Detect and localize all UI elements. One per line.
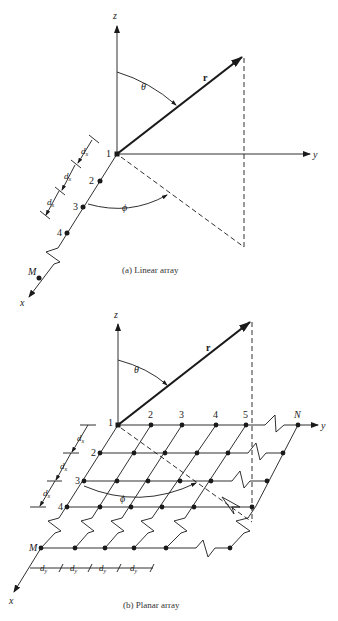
element-2-5	[226, 451, 231, 456]
dx-tick-3	[55, 187, 65, 195]
theta-label: θ	[141, 81, 146, 92]
dy-label-3: dy	[99, 563, 107, 574]
row-label-2: 2	[91, 447, 96, 458]
row-2-line	[100, 443, 283, 460]
element-3-2	[115, 479, 120, 484]
row-4-line	[67, 497, 252, 514]
element-m-2	[73, 546, 78, 551]
element-3-4	[178, 479, 183, 484]
element-1-1	[116, 423, 121, 428]
element-2	[98, 179, 103, 184]
column-label-4: 4	[213, 409, 218, 420]
phi-label: ϕ	[120, 493, 125, 504]
element-2-4	[195, 451, 200, 456]
element-4-5	[192, 505, 197, 510]
theta-arc	[118, 360, 167, 385]
element-3	[81, 205, 86, 210]
planar-array-labels: z y x r θ ϕ 1 2 3 4 M 2 3 4 5 N dx dx dx…	[8, 309, 326, 610]
z-axis-label: z	[113, 309, 118, 320]
row-1-line	[118, 415, 298, 432]
element-3-n	[265, 479, 270, 484]
element-4	[65, 231, 70, 236]
x-axis-label: x	[19, 297, 25, 308]
element-1-n	[296, 423, 301, 428]
element-m-1	[39, 546, 44, 551]
dy-label-4: dy	[130, 563, 138, 574]
column-5-line	[166, 425, 246, 548]
element-1-2	[149, 423, 154, 428]
phi-label: ϕ	[122, 202, 127, 213]
element-1-5	[244, 423, 249, 428]
theta-arc	[117, 72, 176, 105]
antenna-array-figure: z y x r θ ϕ 1 2 3 4 M dx dx dx (a) Linea…	[0, 0, 338, 621]
element-m	[37, 276, 42, 281]
column-label-n: N	[293, 409, 302, 420]
element-4-2	[98, 505, 103, 510]
element-4-4	[160, 505, 165, 510]
column-4-line	[134, 425, 216, 548]
dy-label-1: dy	[40, 563, 48, 574]
element-4-n	[250, 505, 255, 510]
dx-label-2: dx	[60, 461, 68, 472]
dx-label-3: dx	[47, 197, 55, 208]
element-m-4	[132, 546, 137, 551]
element-m-5	[164, 546, 169, 551]
column-label-2: 2	[148, 409, 153, 420]
element-1-4	[214, 423, 219, 428]
element-m-n	[228, 546, 233, 551]
dx-label-2: dx	[64, 171, 72, 182]
element-label-4: 4	[57, 227, 62, 238]
element-4-3	[129, 505, 134, 510]
element-1	[115, 152, 120, 157]
linear-array-diagram	[29, 26, 310, 297]
element-1-3	[180, 423, 185, 428]
y-axis-label: y	[312, 149, 318, 160]
r-vector-label: r	[206, 342, 211, 353]
element-label-2: 2	[89, 175, 94, 186]
y-axis-label: y	[320, 420, 326, 431]
element-2-n	[281, 451, 286, 456]
r-vector-label: r	[203, 72, 208, 83]
row-label-1: 1	[108, 417, 113, 428]
phi-arc	[88, 195, 167, 208]
element-4-1	[65, 505, 70, 510]
element-3-1	[82, 479, 87, 484]
row-label-4: 4	[58, 501, 63, 512]
planar-array-diagram	[14, 322, 318, 592]
projection-ground	[121, 157, 244, 247]
element-m-3	[103, 546, 108, 551]
dx-tick-4	[40, 211, 50, 219]
column-label-3: 3	[179, 409, 184, 420]
break-symbol	[46, 248, 60, 264]
linear-array-labels: z y x r θ ϕ 1 2 3 4 M dx dx dx (a) Linea…	[19, 10, 318, 308]
element-2-1	[98, 451, 103, 456]
element-2-3	[163, 451, 168, 456]
row-3-line	[84, 471, 267, 488]
r-vector	[117, 57, 242, 154]
z-axis-label: z	[112, 10, 117, 21]
column-1-line	[41, 425, 118, 548]
caption-linear-array: (a) Linear array	[122, 265, 179, 275]
element-2-2	[132, 451, 137, 456]
row-label-3: 3	[75, 475, 80, 486]
element-3-3	[146, 479, 151, 484]
element-3-5	[209, 479, 214, 484]
dy-label-2: dy	[70, 563, 78, 574]
row-label-m: M	[28, 542, 38, 553]
dx-label-1: dx	[77, 433, 85, 444]
element-label-3: 3	[73, 201, 78, 212]
element-label-1: 1	[106, 148, 111, 159]
element-label-m: M	[27, 266, 37, 277]
column-3-line	[105, 425, 182, 548]
column-label-5: 5	[243, 409, 248, 420]
column-2-line	[75, 425, 151, 548]
x-axis	[14, 548, 41, 592]
caption-planar-array: (b) Planar array	[123, 600, 180, 610]
theta-label: θ	[134, 364, 139, 375]
x-axis-label: x	[8, 595, 14, 606]
column-n-line	[230, 425, 298, 548]
